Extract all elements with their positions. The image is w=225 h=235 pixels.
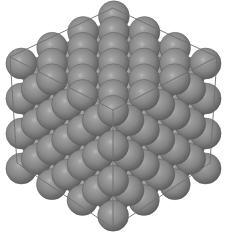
- crystal-lattice-render: [0, 0, 225, 235]
- sphere-group: [6, 1, 221, 231]
